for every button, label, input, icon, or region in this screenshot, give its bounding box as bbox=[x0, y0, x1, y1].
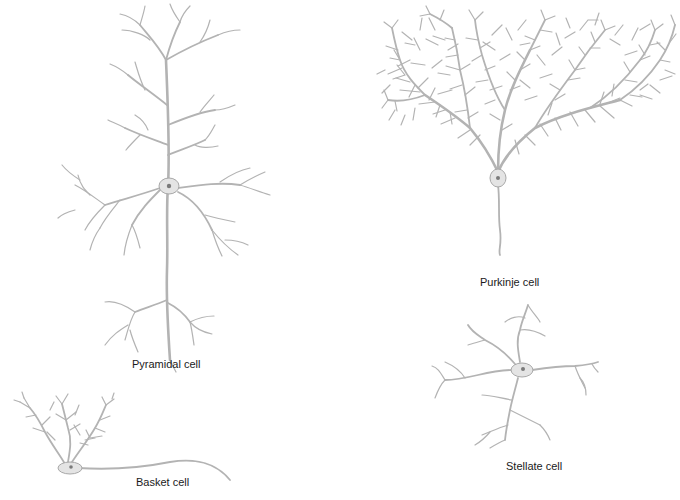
purkinje-cell-label: Purkinje cell bbox=[480, 276, 539, 288]
neuron-types-figure: Pyramidal cell Purkinje cell Stellate ce… bbox=[0, 0, 680, 500]
stellate-cell-label: Stellate cell bbox=[506, 460, 562, 472]
basket-cell-label: Basket cell bbox=[136, 476, 189, 488]
basket-cell-drawing bbox=[0, 0, 680, 500]
pyramidal-cell-label: Pyramidal cell bbox=[132, 358, 200, 370]
